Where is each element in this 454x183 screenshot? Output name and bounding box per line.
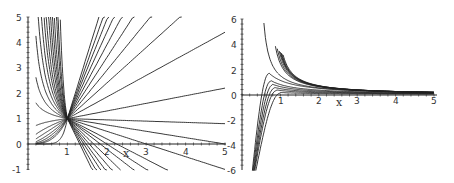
right-y-tick-neg4: -4 bbox=[227, 141, 236, 151]
right-y-tick-2: 2 bbox=[231, 66, 237, 76]
left-plot: 5 4 3 2 1 0 -1 1 2 3 4 5 x bbox=[12, 13, 228, 175]
left-y-tick-neg1: -1 bbox=[12, 165, 21, 175]
chart-canvas: 5 4 3 2 1 0 -1 1 2 3 4 5 x 6 4 2 0 -2 -4… bbox=[0, 0, 454, 183]
right-x-tick-2: 2 bbox=[316, 96, 322, 106]
right-x-tick-1: 1 bbox=[278, 96, 284, 106]
right-plot: 6 4 2 0 -2 -4 -6 1 2 3 4 5 x bbox=[227, 15, 437, 176]
upper-branch-curve bbox=[264, 23, 434, 93]
right-x-axis-label: x bbox=[336, 96, 343, 109]
left-x-tick-3: 3 bbox=[143, 147, 149, 157]
left-y-tick-2: 2 bbox=[16, 89, 22, 99]
right-x-tick-4: 4 bbox=[393, 96, 399, 106]
left-x-tick-2: 2 bbox=[104, 147, 110, 157]
left-x-tick-4: 4 bbox=[183, 147, 189, 157]
right-y-tick-4: 4 bbox=[231, 40, 237, 50]
left-y-tick-0: 0 bbox=[16, 140, 22, 150]
left-y-tick-4: 4 bbox=[16, 38, 22, 48]
right-x-tick-3: 3 bbox=[354, 96, 360, 106]
left-y-tick-3: 3 bbox=[16, 63, 22, 73]
right-y-tick-neg6: -6 bbox=[227, 166, 236, 176]
left-x-tick-1: 1 bbox=[64, 147, 70, 157]
left-x-axis-label: x bbox=[123, 147, 130, 160]
right-y-tick-neg2: -2 bbox=[227, 116, 236, 126]
right-y-tick-6: 6 bbox=[231, 15, 237, 25]
right-x-tick-5: 5 bbox=[431, 96, 437, 106]
right-y-tick-0: 0 bbox=[231, 91, 237, 101]
left-y-tick-5: 5 bbox=[16, 13, 22, 23]
left-y-tick-1: 1 bbox=[16, 114, 22, 124]
middle-branch-curve bbox=[252, 73, 433, 170]
